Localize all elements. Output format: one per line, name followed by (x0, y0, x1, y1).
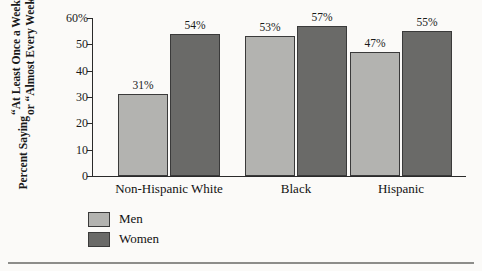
legend: Men Women (88, 211, 159, 247)
bar-women-non-hispanic-white[interactable] (170, 34, 220, 176)
y-tick-label: 10 (76, 142, 88, 157)
y-axis-title-line-1: Percent Saying (16, 116, 30, 190)
y-axis-title-line-3: or “Almost Every Week” (23, 0, 37, 115)
bar-value-label: 31% (132, 79, 153, 91)
legend-item-women: Women (88, 231, 159, 247)
y-axis-line (92, 18, 93, 177)
x-axis-label-hispanic: Hispanic (378, 181, 424, 197)
bar-value-label: 57% (311, 11, 332, 23)
legend-swatch-men-icon (88, 212, 110, 227)
y-tick-label: 40 (76, 63, 88, 78)
y-tick-label: 50 (76, 37, 88, 52)
bar-women-black[interactable] (297, 26, 347, 176)
y-axis-title: Percent Saying “At Least Once a Week” or… (0, 0, 46, 182)
footer-divider (8, 262, 474, 264)
x-axis-label-black: Black (281, 181, 311, 197)
bar-value-label: 53% (259, 21, 280, 33)
y-tick-label: 20 (76, 116, 88, 131)
y-tick-label: 0 (82, 169, 88, 184)
bar-value-label: 54% (184, 19, 205, 31)
y-tick-label: 60% (66, 11, 88, 26)
legend-item-men: Men (88, 211, 159, 227)
legend-label-men: Men (119, 211, 143, 227)
x-axis-label-non-hispanic-white: Non-Hispanic White (115, 181, 223, 197)
bar-men-black[interactable] (245, 36, 295, 176)
bar-men-hispanic[interactable] (350, 52, 400, 176)
plot-area: 0102030405060% 31%54%53%57%47%55% Non-Hi… (92, 18, 466, 177)
bar-chart-figure: Percent Saying “At Least Once a Week” or… (0, 0, 482, 271)
bar-women-hispanic[interactable] (402, 31, 452, 176)
legend-swatch-women-icon (88, 232, 110, 247)
legend-label-women: Women (119, 231, 159, 247)
y-tick-label: 30 (76, 90, 88, 105)
x-axis-line (92, 176, 466, 177)
y-axis-title-line-2: “At Least Once a Week” (9, 0, 23, 115)
bar-value-label: 55% (416, 16, 437, 28)
bar-value-label: 47% (364, 37, 385, 49)
bar-men-non-hispanic-white[interactable] (118, 94, 168, 176)
